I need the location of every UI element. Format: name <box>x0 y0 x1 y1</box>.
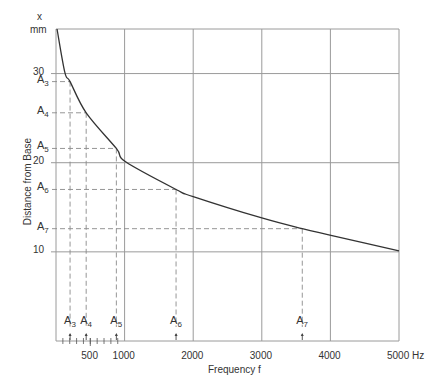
x-tick-label: 5000 Hz <box>387 351 424 361</box>
y-tick-label: 10 <box>33 245 44 255</box>
grid-lines <box>51 29 399 341</box>
x-tick-label: 2000 <box>181 351 203 361</box>
chart-plot-area <box>0 0 441 388</box>
annotation-guide-lines <box>52 82 304 340</box>
data-curve <box>57 29 399 251</box>
annotation-label-bottom: A3 <box>64 315 76 329</box>
x-minor-ticks <box>63 338 118 346</box>
annotation-label-bottom: A4 <box>80 315 92 329</box>
x-tick-label: 4000 <box>318 351 340 361</box>
x-axis-label: Frequency f <box>208 365 261 375</box>
x-tick-label: 500 <box>81 351 98 361</box>
y-axis-label: Distance from Base <box>22 127 33 237</box>
annotation-label-left: A5 <box>37 140 49 154</box>
annotation-label-left: A6 <box>37 181 49 195</box>
annotation-label-bottom: A5 <box>110 315 122 329</box>
y-tick-label: 20 <box>33 156 44 166</box>
y-unit-mm: mm <box>30 25 47 35</box>
x-tick-label: 3000 <box>250 351 272 361</box>
y-unit-x: x <box>37 12 42 22</box>
x-tick-label: 1000 <box>113 351 135 361</box>
annotation-label-left: A7 <box>37 221 49 235</box>
annotation-label-left: A3 <box>37 74 49 88</box>
annotation-label-left: A4 <box>37 105 49 119</box>
annotation-label-bottom: A7 <box>296 315 308 329</box>
annotation-label-bottom: A6 <box>170 315 182 329</box>
